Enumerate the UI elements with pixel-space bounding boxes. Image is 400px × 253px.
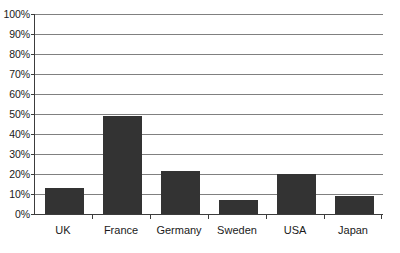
x-tick-mark [266,214,267,219]
y-tick-label: 10% [9,189,30,200]
bar [161,171,200,214]
x-tick-mark [324,214,325,219]
x-tick-label: Japan [338,225,368,236]
y-tick-label: 20% [9,169,30,180]
y-tick-label: 60% [9,89,30,100]
x-tick-label: France [104,225,138,236]
y-tick-label: 80% [9,49,30,60]
y-tick-label: 100% [4,9,30,20]
x-tick-mark [92,214,93,219]
bar-chart: 0%10%20%30%40%50%60%70%80%90%100% UKFran… [0,0,400,253]
x-tick-label: UK [55,225,70,236]
y-tick-label: 40% [9,129,30,140]
y-tick-label: 70% [9,69,30,80]
y-tick-label: 90% [9,29,30,40]
bar [277,174,316,214]
y-tick-label: 50% [9,109,30,120]
x-tick-mark [150,214,151,219]
y-axis: 0%10%20%30%40%50%60%70%80%90%100% [0,0,34,253]
x-tick-mark [208,214,209,219]
bar [103,116,142,214]
bar [219,200,258,214]
y-tick-label: 0% [15,209,30,220]
y-tick-label: 30% [9,149,30,160]
bar [45,188,84,214]
x-axis: UKFranceGermanySwedenUSAJapan [34,214,382,253]
x-tick-mark-end [381,214,382,219]
bars-layer [35,14,383,214]
bar [335,196,374,214]
x-tick-label: Germany [156,225,201,236]
plot-area [34,14,383,214]
x-tick-label: USA [284,225,307,236]
x-tick-label: Sweden [217,225,257,236]
